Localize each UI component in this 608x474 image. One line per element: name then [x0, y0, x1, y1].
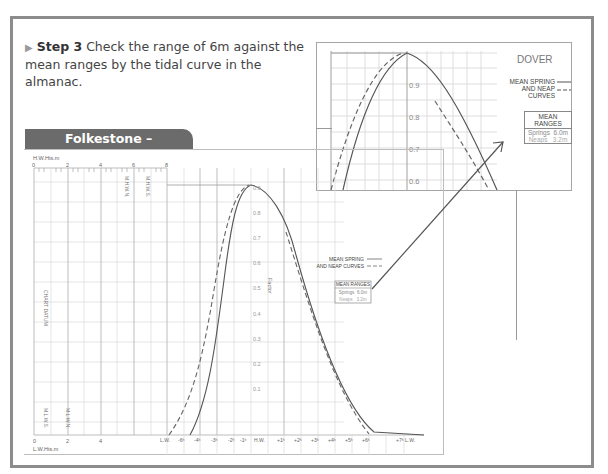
pointer-arrow — [0, 0, 608, 474]
